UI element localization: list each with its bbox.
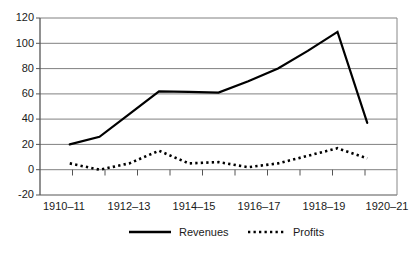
ytick-label-20: 20 bbox=[6, 138, 34, 150]
plot-area bbox=[0, 0, 413, 253]
ytick-label-80: 80 bbox=[6, 62, 34, 74]
ytick-label-0: 0 bbox=[6, 163, 34, 175]
legend-label-revenues: Revenues bbox=[179, 226, 229, 238]
ytick-label-neg20: -20 bbox=[4, 188, 34, 200]
ytick-label-40: 40 bbox=[6, 112, 34, 124]
ytick-label-60: 60 bbox=[6, 87, 34, 99]
plot-background bbox=[40, 18, 397, 195]
ytick-label-120: 120 bbox=[6, 11, 34, 23]
legend-label-profits: Profits bbox=[293, 226, 324, 238]
line-chart: 120 100 80 60 40 20 0 -20 1910–11 1912–1… bbox=[0, 0, 413, 253]
ytick-label-100: 100 bbox=[6, 37, 34, 49]
xtick-label-1920-21: 1920–21 bbox=[348, 200, 413, 212]
